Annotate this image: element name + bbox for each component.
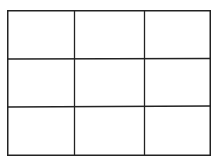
grid-border (8, 11, 211, 156)
three-by-three-grid (7, 10, 211, 156)
grid-lines (7, 10, 211, 156)
grid-horizontal-line-1 (7, 59, 211, 60)
